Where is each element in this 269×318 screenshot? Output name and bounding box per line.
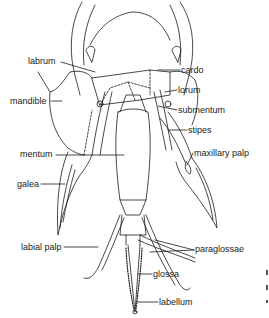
label-lorum: lorum xyxy=(178,85,201,95)
label-galea: galea xyxy=(17,179,39,189)
label-labellum: labellum xyxy=(159,297,193,307)
label-cardo: cardo xyxy=(181,65,204,75)
label-mandible: mandible xyxy=(10,96,47,106)
label-labial-palp: labial palp xyxy=(21,242,62,252)
label-paraglossae: paraglossae xyxy=(195,244,244,254)
label-labrum: labrum xyxy=(28,56,56,66)
label-glossa: glossa xyxy=(153,269,179,279)
mouthparts-diagram: labrum mandible mentum galea labial palp… xyxy=(0,0,269,318)
label-mentum: mentum xyxy=(20,149,53,159)
label-stipes: stipes xyxy=(188,125,212,135)
mouthparts-drawing xyxy=(0,0,269,318)
label-submentum: submentum xyxy=(178,105,225,115)
label-maxillary-palp: maxillary palp xyxy=(194,148,249,158)
edge-mark xyxy=(266,270,268,275)
edge-mark xyxy=(266,285,268,290)
edge-mark xyxy=(266,300,268,303)
